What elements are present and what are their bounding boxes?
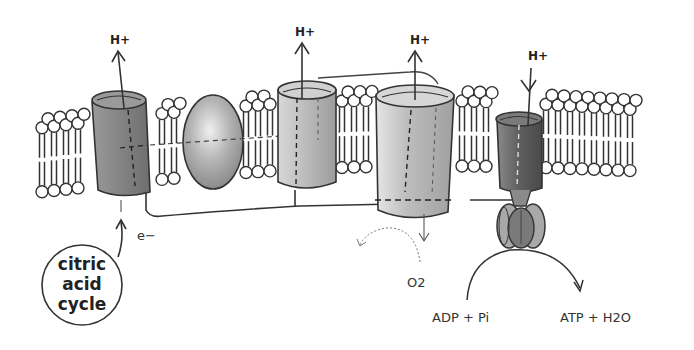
reactants-label: ADP + Pi bbox=[432, 310, 489, 325]
proton-label-2: H+ bbox=[295, 25, 315, 39]
etc-diagram: H+ H+ H+ H+ e− citric acid cycle O2 ADP … bbox=[0, 0, 694, 350]
electron-path-line bbox=[146, 186, 395, 216]
proton-label-3: H+ bbox=[410, 33, 430, 47]
complex-i bbox=[92, 91, 150, 196]
diagram-canvas: H+ H+ H+ H+ e− citric acid cycle O2 ADP … bbox=[0, 0, 694, 350]
citric-label-line1: citric bbox=[58, 254, 106, 274]
citric-label-line2: acid bbox=[62, 274, 102, 294]
proton-label-4: H+ bbox=[528, 49, 548, 63]
electron-label: e− bbox=[137, 228, 156, 243]
oxygen-label: O2 bbox=[407, 275, 426, 290]
proton-label-1: H+ bbox=[110, 33, 130, 47]
cytochrome-c-path bbox=[318, 72, 438, 84]
citric-label-line3: cycle bbox=[58, 294, 107, 314]
products-label: ATP + H2O bbox=[560, 310, 631, 325]
complex-iii bbox=[278, 81, 336, 188]
